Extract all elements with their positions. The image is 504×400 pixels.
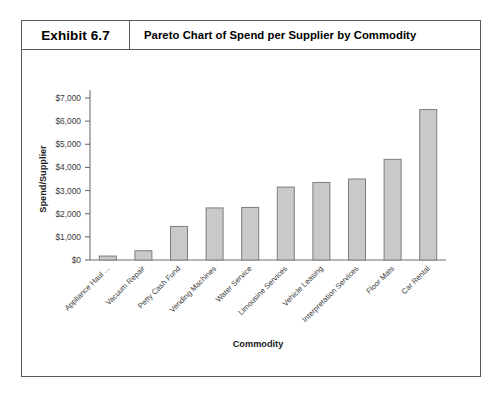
exhibit-frame: Exhibit 6.7 Pareto Chart of Spend per Su… — [21, 20, 481, 377]
bar — [313, 182, 330, 260]
exhibit-header: Exhibit 6.7 Pareto Chart of Spend per Su… — [22, 21, 480, 50]
y-tick-label: $0 — [72, 255, 82, 265]
y-tick-label: $3,000 — [55, 186, 81, 196]
bar — [242, 207, 259, 260]
x-axis-tick-labels: Appliance Haul ...Vacuum RepairPetty Cas… — [63, 264, 432, 324]
chart-svg: $0$1,000$2,000$3,000$4,000$5,000$6,000$7… — [22, 50, 480, 376]
bar — [277, 187, 294, 260]
y-axis-title: Spend/Supplier — [38, 145, 48, 213]
y-tick-label: $5,000 — [55, 139, 81, 149]
y-tick-label: $6,000 — [55, 116, 81, 126]
y-tick-label: $4,000 — [55, 162, 81, 172]
bar — [206, 208, 223, 260]
bar-series — [99, 110, 436, 260]
y-tick-label: $7,000 — [55, 93, 81, 103]
bar — [420, 110, 437, 260]
x-tick-label: Car Rental — [400, 264, 432, 296]
bar — [384, 159, 401, 260]
x-axis-title: Commodity — [233, 339, 284, 349]
y-tick-label: $1,000 — [55, 232, 81, 242]
y-axis-ticks: $0$1,000$2,000$3,000$4,000$5,000$6,000$7… — [55, 93, 90, 265]
bar — [171, 226, 188, 260]
bar — [135, 251, 152, 260]
bar — [349, 179, 366, 260]
x-tick-label: Appliance Haul ... — [63, 264, 111, 312]
pareto-chart: $0$1,000$2,000$3,000$4,000$5,000$6,000$7… — [22, 50, 480, 376]
y-tick-label: $2,000 — [55, 209, 81, 219]
x-tick-label: Floor Mats — [364, 264, 396, 296]
exhibit-title-label: Pareto Chart of Spend per Supplier by Co… — [130, 21, 480, 49]
exhibit-number-label: Exhibit 6.7 — [22, 21, 130, 49]
bar — [99, 256, 116, 260]
